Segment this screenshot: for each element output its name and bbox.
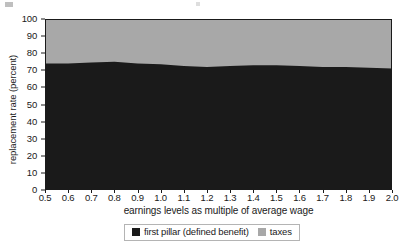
x-tick-label: 1.3 — [224, 192, 237, 203]
x-tick-mark — [323, 190, 324, 193]
chart-figure: replacement rate (percent) 0102030405060… — [0, 0, 405, 248]
legend-label-taxes: taxes — [270, 227, 292, 237]
x-tick-label: 1.0 — [154, 192, 167, 203]
y-tick-label: 20 — [27, 151, 37, 161]
x-tick-mark — [392, 190, 393, 193]
legend-swatch-taxes — [258, 228, 266, 236]
x-tick-mark — [299, 190, 300, 193]
x-tick-mark — [276, 190, 277, 193]
x-tick-label: 0.7 — [85, 192, 98, 203]
y-tick-label: 0 — [32, 185, 37, 195]
legend-swatch-first-pillar — [132, 228, 140, 236]
x-tick-label: 1.7 — [316, 192, 329, 203]
plot-area — [45, 19, 392, 190]
x-axis-title: earnings levels as multiple of average w… — [45, 205, 392, 216]
y-tick-label: 50 — [27, 100, 37, 110]
x-tick-label: 1.2 — [201, 192, 214, 203]
stacked-area-svg — [45, 19, 392, 190]
x-tick-label: 1.6 — [293, 192, 306, 203]
y-tick-label: 60 — [27, 83, 37, 93]
x-tick-label: 1.8 — [339, 192, 352, 203]
x-tick-label: 2.0 — [386, 192, 399, 203]
y-tick-label: 70 — [27, 66, 37, 76]
x-tick-mark — [68, 190, 69, 193]
chart-legend: first pillar (defined benefit) taxes — [124, 224, 300, 241]
y-tick-label: 100 — [22, 14, 37, 24]
x-tick-label: 0.9 — [131, 192, 144, 203]
area-series-first-pillar — [45, 62, 392, 190]
x-tick-label: 1.4 — [247, 192, 260, 203]
x-tick-label: 0.5 — [39, 192, 52, 203]
x-tick-mark — [91, 190, 92, 193]
x-tick-mark — [346, 190, 347, 193]
page-artifact-top-center — [196, 2, 200, 6]
y-tick-label: 40 — [27, 117, 37, 127]
y-tick-label: 10 — [27, 168, 37, 178]
y-axis: 0102030405060708090100 — [0, 0, 45, 200]
x-tick-mark — [184, 190, 185, 193]
legend-label-first-pillar: first pillar (defined benefit) — [144, 227, 249, 237]
x-tick-label: 1.9 — [363, 192, 376, 203]
x-tick-mark — [253, 190, 254, 193]
x-tick-mark — [138, 190, 139, 193]
x-tick-mark — [230, 190, 231, 193]
x-tick-label: 0.6 — [62, 192, 75, 203]
y-tick-label: 30 — [27, 134, 37, 144]
x-tick-mark — [207, 190, 208, 193]
x-tick-mark — [161, 190, 162, 193]
x-tick-label: 1.5 — [270, 192, 283, 203]
x-tick-label: 1.1 — [177, 192, 190, 203]
legend-entry-first-pillar: first pillar (defined benefit) — [132, 227, 249, 237]
x-tick-mark — [45, 190, 46, 193]
legend-entry-taxes: taxes — [258, 227, 292, 237]
y-tick-label: 80 — [27, 48, 37, 58]
x-tick-label: 0.8 — [108, 192, 121, 203]
x-tick-mark — [369, 190, 370, 193]
x-tick-mark — [114, 190, 115, 193]
y-tick-label: 90 — [27, 31, 37, 41]
